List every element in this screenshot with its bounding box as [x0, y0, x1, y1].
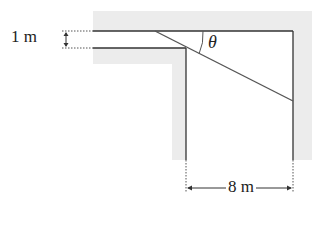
angle-arc: [199, 31, 203, 54]
arrowhead-left-icon: [187, 186, 192, 191]
corridor-gap-label: 8 m: [226, 177, 256, 197]
angle-label: θ: [208, 32, 217, 53]
inner-wall-region: [93, 48, 186, 160]
corridor-diagram: [0, 0, 317, 227]
corridor-width-label: 1 m: [11, 27, 37, 47]
arrowhead-right-icon: [287, 186, 292, 191]
wall-region: [93, 11, 312, 160]
arrowhead-up-icon: [64, 32, 69, 36]
arrowhead-down-icon: [64, 43, 69, 47]
